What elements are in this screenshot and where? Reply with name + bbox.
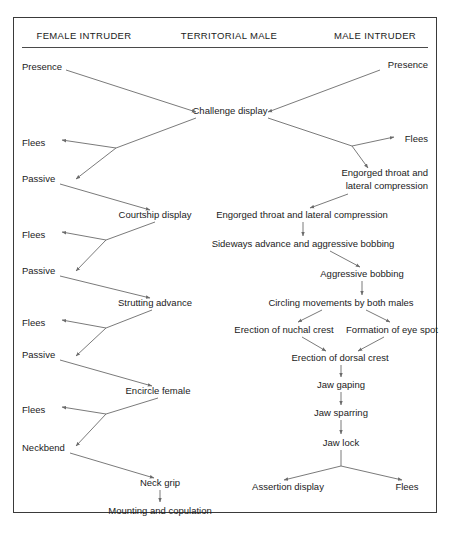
header-divider-rule — [22, 47, 428, 48]
node-passive-f1: Passive — [22, 172, 55, 185]
node-flees-f4: Flees — [22, 403, 45, 416]
node-engorged-throat-lateral-compression-male-intruder: Engorged throat andlateral compression — [341, 166, 428, 192]
node-formation-of-eye-spot: Formation of eye spot — [346, 323, 438, 336]
node-presence-female: Presence — [22, 60, 62, 73]
node-challenge-display: Challenge display — [193, 104, 268, 117]
node-mounting-and-copulation: Mounting and copulation — [108, 504, 212, 517]
node-jaw-sparring: Jaw sparring — [314, 406, 368, 419]
node-jaw-gaping: Jaw gaping — [317, 378, 365, 391]
node-flees-f3: Flees — [22, 316, 45, 329]
node-encircle-female: Encircle female — [126, 384, 191, 397]
column-heading-male-intruder: MALE INTRUDER — [334, 30, 416, 41]
node-flees-m2: Flees — [395, 480, 418, 493]
node-presence-male: Presence — [388, 58, 428, 71]
node-aggressive-bobbing: Aggressive bobbing — [320, 267, 403, 280]
node-assertion-display: Assertion display — [252, 480, 324, 493]
diagram-frame — [13, 17, 437, 513]
node-neckbend: Neckbend — [22, 441, 65, 454]
node-erection-of-nuchal-crest: Erection of nuchal crest — [234, 323, 333, 336]
node-flees-f2: Flees — [22, 228, 45, 241]
node-engorged-throat-lateral-compression-territorial: Engorged throat and lateral compression — [216, 208, 388, 221]
column-heading-female-intruder: FEMALE INTRUDER — [37, 30, 132, 41]
node-circling-movements: Circling movements by both males — [268, 296, 413, 309]
node-flees-f1: Flees — [22, 136, 45, 149]
node-jaw-lock: Jaw lock — [323, 436, 359, 449]
column-heading-territorial-male: TERRITORIAL MALE — [181, 30, 277, 41]
node-passive-f2: Passive — [22, 264, 55, 277]
node-erection-of-dorsal-crest: Erection of dorsal crest — [291, 351, 388, 364]
node-strutting-advance: Strutting advance — [118, 296, 192, 309]
node-courtship-display: Courtship display — [119, 208, 192, 221]
node-sideways-advance-aggressive-bobbing: Sideways advance and aggressive bobbing — [212, 237, 395, 250]
node-flees-m1: Flees — [405, 132, 428, 145]
node-neck-grip: Neck grip — [140, 476, 180, 489]
node-passive-f3: Passive — [22, 348, 55, 361]
diagram-page: FEMALE INTRUDERTERRITORIAL MALEMALE INTR… — [0, 0, 454, 538]
